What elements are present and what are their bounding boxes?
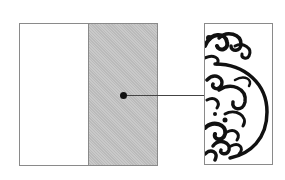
detail-panel <box>204 23 273 165</box>
callout-dot <box>120 92 127 99</box>
left-plain-panel <box>19 23 89 166</box>
callout-line <box>124 95 204 96</box>
cloud-scroll-ornament-icon <box>205 24 273 165</box>
